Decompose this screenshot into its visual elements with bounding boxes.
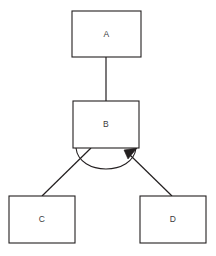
edge-d-to-b[interactable] [124, 148, 172, 196]
edge-b-to-c[interactable] [42, 148, 91, 196]
edge-b-to-c-line [42, 148, 91, 196]
node-d[interactable]: D [140, 196, 206, 243]
node-c-label: C [39, 214, 45, 224]
node-c[interactable]: C [9, 196, 75, 243]
node-d-label: D [170, 214, 176, 224]
diagram-canvas: A B C D [0, 0, 216, 256]
node-b[interactable]: B [73, 101, 139, 148]
node-b-label: B [103, 119, 109, 129]
edge-d-to-b-line [130, 155, 172, 196]
node-a[interactable]: A [72, 11, 141, 57]
node-a-label: A [104, 29, 110, 39]
uml-diagram: A B C D [0, 0, 216, 256]
